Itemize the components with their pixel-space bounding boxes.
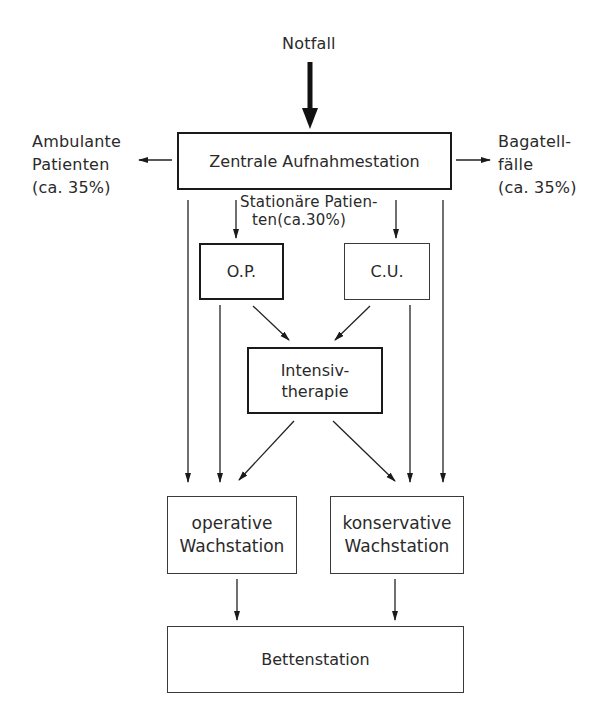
intensivtherapie-box: Intensiv- therapie (247, 347, 383, 414)
bagatell-line2: fälle (498, 153, 577, 176)
stationaer-label: Stationäre Patien- ten(ca.30%) (240, 193, 378, 229)
bettenstation-box: Bettenstation (167, 626, 464, 693)
arrow-intensiv-to-op-wach (239, 421, 294, 480)
zentrale-label: Zentrale Aufnahmestation (209, 151, 419, 172)
arrow-op-to-intensiv (253, 306, 289, 340)
bagatell-line3: (ca. 35%) (498, 176, 577, 199)
intensiv-line1: Intensiv- (281, 360, 350, 381)
op-wach-line1: operative (192, 512, 273, 535)
cu-label: C.U. (370, 261, 403, 282)
betten-label: Bettenstation (261, 649, 369, 670)
bagatell-line1: Bagatell- (498, 130, 577, 153)
konservative-wachstation-box: konservative Wachstation (330, 496, 464, 574)
ambulant-line3: (ca. 35%) (32, 176, 121, 199)
op-wach-line2: Wachstation (180, 535, 285, 558)
op-label: O.P. (227, 261, 256, 282)
stationaer-line1: Stationäre Patien- (240, 193, 378, 211)
arrow-intensiv-to-kons-wach (333, 421, 395, 481)
cu-box: C.U. (344, 243, 430, 300)
kons-wach-line1: konservative (342, 512, 451, 535)
ambulant-line2: Patienten (32, 153, 121, 176)
operative-wachstation-box: operative Wachstation (167, 496, 297, 574)
intensiv-line2: therapie (281, 381, 348, 402)
bagatell-label: Bagatell- fälle (ca. 35%) (498, 130, 577, 199)
notfall-label: Notfall (282, 34, 336, 54)
notfall-arrow (302, 62, 318, 129)
zentrale-aufnahmestation-box: Zentrale Aufnahmestation (177, 132, 452, 190)
kons-wach-line2: Wachstation (345, 535, 450, 558)
op-box: O.P. (199, 243, 284, 300)
ambulant-label: Ambulante Patienten (ca. 35%) (32, 130, 121, 199)
ambulant-line1: Ambulante (32, 130, 121, 153)
stationaer-line2: ten(ca.30%) (240, 211, 378, 229)
arrow-cu-to-intensiv (335, 306, 370, 340)
